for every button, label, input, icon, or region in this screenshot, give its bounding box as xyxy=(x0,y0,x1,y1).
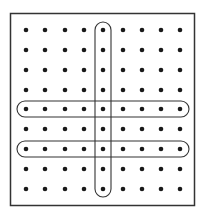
grid-dot xyxy=(24,187,29,192)
grid-dot xyxy=(121,107,126,112)
grid-dot xyxy=(121,167,126,172)
grid-dot xyxy=(63,28,68,33)
grid-dot xyxy=(63,107,68,112)
grid-dot xyxy=(159,127,164,132)
grid-dot xyxy=(24,147,29,152)
grid-dot xyxy=(178,127,183,132)
grid-dot xyxy=(82,28,87,33)
grid-dot xyxy=(178,167,183,172)
grid-dot xyxy=(63,48,68,53)
grid-dot xyxy=(82,167,87,172)
grid-dot xyxy=(178,68,183,73)
grid-dot xyxy=(178,88,183,93)
grid-dot xyxy=(101,167,106,172)
grid-dot xyxy=(82,147,87,152)
grid-dot xyxy=(82,48,87,53)
grid-dot xyxy=(82,127,87,132)
grid-dot xyxy=(159,68,164,73)
grid-dot xyxy=(43,167,48,172)
grid-dot xyxy=(159,167,164,172)
grid-dot xyxy=(159,147,164,152)
grid-dot xyxy=(24,127,29,132)
grid-dot xyxy=(63,147,68,152)
grid-dot xyxy=(159,28,164,33)
grid-dot xyxy=(43,147,48,152)
grid-dot xyxy=(140,107,145,112)
grid-dot xyxy=(82,68,87,73)
grid-dot xyxy=(24,88,29,93)
grid-dot xyxy=(159,187,164,192)
dot-grid xyxy=(24,28,183,192)
grid-dot xyxy=(24,107,29,112)
grid-dot xyxy=(63,88,68,93)
grid-dot xyxy=(43,88,48,93)
grid-dot xyxy=(101,107,106,112)
grid-dot xyxy=(159,88,164,93)
grid-dot xyxy=(63,127,68,132)
grid-dot xyxy=(101,68,106,73)
grid-dot xyxy=(24,48,29,53)
grid-dot xyxy=(82,88,87,93)
grid-dot xyxy=(121,28,126,33)
grid-dot xyxy=(63,187,68,192)
grid-dot xyxy=(101,48,106,53)
grid-dot xyxy=(82,187,87,192)
grid-dot xyxy=(24,68,29,73)
grid-dot xyxy=(43,28,48,33)
grid-dot xyxy=(24,28,29,33)
grid-dot xyxy=(121,68,126,73)
grid-dot xyxy=(121,187,126,192)
grid-dot xyxy=(140,88,145,93)
grid-dot xyxy=(159,48,164,53)
grid-dot xyxy=(82,107,87,112)
grid-dot xyxy=(178,28,183,33)
grid-dot xyxy=(140,187,145,192)
grid-dot xyxy=(101,127,106,132)
grid-dot xyxy=(24,167,29,172)
grid-dot xyxy=(140,68,145,73)
grid-dot xyxy=(43,187,48,192)
grid-dot xyxy=(140,167,145,172)
grid-dot xyxy=(101,88,106,93)
grid-dot xyxy=(140,48,145,53)
grid-dot xyxy=(101,28,106,33)
grid-dot xyxy=(178,147,183,152)
grid-dot xyxy=(121,127,126,132)
grid-dot xyxy=(43,48,48,53)
grid-dot xyxy=(43,68,48,73)
grid-dot xyxy=(101,187,106,192)
grid-dot xyxy=(140,127,145,132)
grid-dot xyxy=(43,107,48,112)
grid-dot xyxy=(140,147,145,152)
dot-grid-diagram xyxy=(0,0,206,213)
grid-dot xyxy=(101,147,106,152)
grid-dot xyxy=(63,68,68,73)
grid-dot xyxy=(159,107,164,112)
grid-dot xyxy=(121,147,126,152)
grid-dot xyxy=(178,48,183,53)
grid-dot xyxy=(140,28,145,33)
grid-dot xyxy=(121,48,126,53)
grid-dot xyxy=(178,107,183,112)
grid-dot xyxy=(178,187,183,192)
grid-dot xyxy=(43,127,48,132)
grid-dot xyxy=(121,88,126,93)
grid-dot xyxy=(63,167,68,172)
